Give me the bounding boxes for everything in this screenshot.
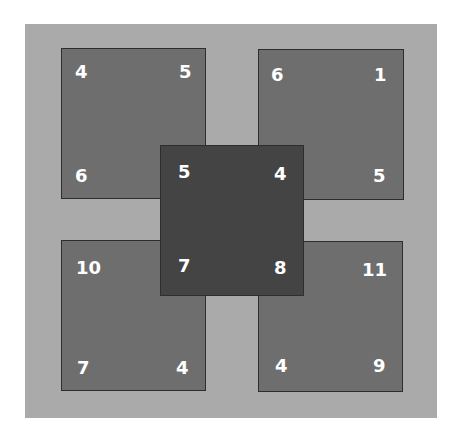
number-bottom-right: 8 [274,259,287,277]
number-top-left: 6 [271,66,284,84]
number-top-right: 5 [179,63,192,81]
number-bottom-right: 4 [176,359,189,377]
number-top-left: 5 [178,163,191,181]
number-bottom-left: 7 [178,257,191,275]
number-bottom-left: 4 [275,357,288,375]
number-top-left: 10 [76,259,101,277]
number-top-right: 4 [274,165,287,183]
number-bottom-right: 5 [373,167,386,185]
number-bottom-right: 9 [373,357,386,375]
number-top-left: 4 [75,63,88,81]
square-center: 5 4 7 8 [160,145,304,296]
number-top-right: 1 [374,66,387,84]
number-bottom-left: 7 [77,359,90,377]
number-bottom-left: 6 [75,167,88,185]
number-top-right: 11 [362,261,387,279]
